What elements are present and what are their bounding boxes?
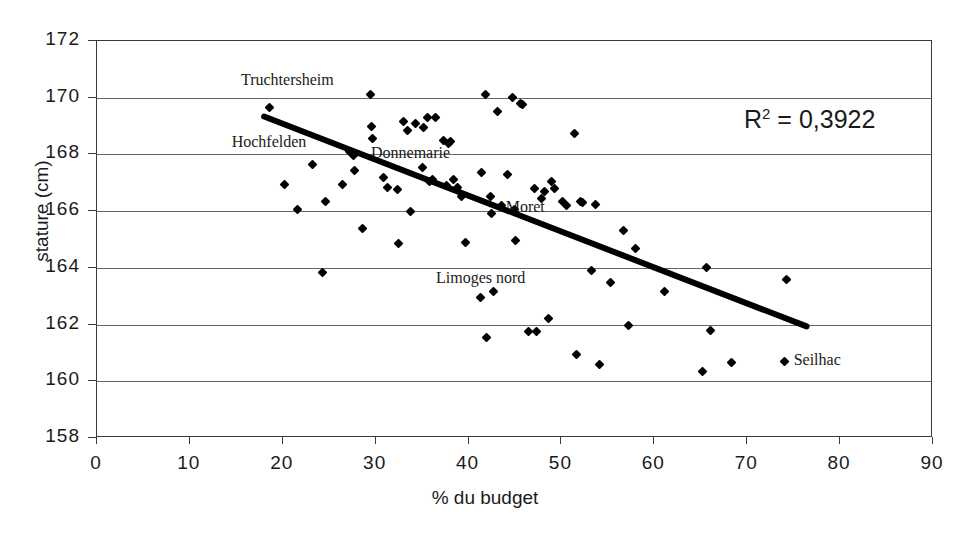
data-point	[378, 172, 388, 182]
data-point	[349, 165, 359, 175]
y-tick-172	[88, 40, 96, 41]
x-axis-title: % du budget	[0, 487, 970, 509]
x-tick-50	[560, 437, 561, 444]
annotation-truchtersheim: Truchtersheim	[241, 71, 334, 89]
data-point	[571, 349, 581, 359]
data-point	[569, 128, 579, 138]
r-squared-exponent: 2	[762, 105, 770, 122]
data-point	[393, 185, 403, 195]
x-tick-label-50: 50	[530, 452, 590, 474]
data-point	[402, 125, 412, 135]
x-tick-label-40: 40	[438, 452, 498, 474]
data-point	[503, 169, 513, 179]
data-point	[517, 100, 527, 110]
data-point	[660, 287, 670, 297]
data-point	[383, 182, 393, 192]
plot-area: TruchtersheimHochfeldenDonnemarieMoretLi…	[96, 40, 932, 437]
data-point	[321, 196, 331, 206]
gridline-y-160	[97, 381, 931, 382]
x-tick-label-0: 0	[66, 452, 126, 474]
x-tick-10	[189, 437, 190, 444]
data-point	[368, 134, 378, 144]
gridline-y-162	[97, 325, 931, 326]
y-tick-168	[88, 153, 96, 154]
x-tick-label-90: 90	[902, 452, 962, 474]
data-point	[698, 366, 708, 376]
data-point	[781, 274, 791, 284]
data-point	[530, 184, 540, 194]
data-point	[489, 287, 499, 297]
data-point	[591, 199, 601, 209]
data-point	[619, 226, 629, 236]
data-point	[280, 179, 290, 189]
annotation-moret: Moret	[506, 198, 545, 216]
data-point	[293, 205, 303, 215]
x-tick-0	[96, 437, 97, 444]
data-point	[441, 181, 451, 191]
data-point	[492, 107, 502, 117]
annotation-hochfelden: Hochfelden	[232, 133, 307, 151]
data-point	[543, 314, 553, 324]
scatter-chart-figure: TruchtersheimHochfeldenDonnemarieMoretLi…	[0, 0, 970, 541]
data-point	[367, 121, 377, 131]
data-point	[486, 192, 496, 202]
data-point	[406, 206, 416, 216]
x-tick-40	[468, 437, 469, 444]
x-tick-label-30: 30	[345, 452, 405, 474]
y-tick-label-160: 160	[14, 368, 80, 390]
data-point	[481, 332, 491, 342]
data-point	[417, 162, 427, 172]
data-point	[456, 192, 466, 202]
y-tick-label-172: 172	[14, 28, 80, 50]
y-tick-158	[88, 437, 96, 438]
annotation-donnemarie: Donnemarie	[371, 144, 450, 162]
y-tick-166	[88, 210, 96, 211]
data-point	[430, 113, 440, 123]
x-tick-80	[839, 437, 840, 444]
data-point	[476, 293, 486, 303]
x-tick-label-70: 70	[716, 452, 776, 474]
y-tick-164	[88, 267, 96, 268]
data-point	[726, 358, 736, 368]
data-point	[348, 151, 358, 161]
data-point	[550, 184, 560, 194]
y-tick-170	[88, 97, 96, 98]
seilhac-marker-icon	[779, 356, 789, 366]
r-squared-symbol: R	[744, 105, 762, 133]
x-tick-60	[653, 437, 654, 444]
x-tick-30	[375, 437, 376, 444]
y-tick-160	[88, 380, 96, 381]
data-point	[705, 325, 715, 335]
data-point	[606, 277, 616, 287]
x-tick-label-60: 60	[623, 452, 683, 474]
data-point	[337, 179, 347, 189]
data-point	[623, 321, 633, 331]
y-axis-title: stature (cm)	[31, 91, 53, 331]
y-tick-label-158: 158	[14, 425, 80, 447]
data-point	[461, 237, 471, 247]
data-point	[358, 223, 368, 233]
data-point	[511, 236, 521, 246]
x-tick-label-10: 10	[159, 452, 219, 474]
x-tick-20	[282, 437, 283, 444]
gridline-y-168	[97, 154, 931, 155]
data-point	[631, 243, 641, 253]
data-point	[701, 263, 711, 273]
data-point	[394, 239, 404, 249]
annotation-limoges-nord: Limoges nord	[436, 269, 525, 287]
data-point	[265, 103, 275, 113]
x-tick-90	[932, 437, 933, 444]
data-point	[507, 93, 517, 103]
r-squared-value: 0,3922	[799, 105, 875, 133]
y-tick-162	[88, 324, 96, 325]
data-point	[595, 359, 605, 369]
x-tick-label-80: 80	[809, 452, 869, 474]
r-squared-equals: =	[777, 105, 792, 133]
annotation-seilhac: Seilhac	[794, 351, 841, 369]
x-tick-70	[746, 437, 747, 444]
r-squared-annotation: R2 = 0,3922	[744, 105, 875, 134]
x-tick-label-20: 20	[252, 452, 312, 474]
data-point	[531, 327, 541, 337]
data-point	[477, 168, 487, 178]
data-point	[308, 159, 318, 169]
